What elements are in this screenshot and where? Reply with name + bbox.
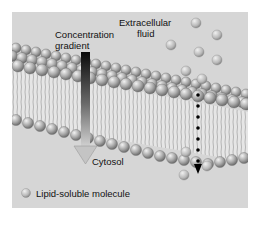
diagram-panel: Extracellular fluid Concentration gradie… (12, 12, 248, 208)
label-extracellular-fluid-line2: fluid (137, 28, 154, 39)
label-concentration-gradient-line1: Concentration (55, 29, 114, 40)
legend-label-lipid-soluble-molecule: Lipid-soluble molecule (36, 188, 130, 199)
label-concentration-gradient-line2: gradient (55, 40, 89, 51)
label-cytosol: Cytosol (92, 156, 124, 167)
label-extracellular-fluid-line1: Extracellular (119, 17, 171, 28)
membrane-illustration (12, 12, 248, 208)
